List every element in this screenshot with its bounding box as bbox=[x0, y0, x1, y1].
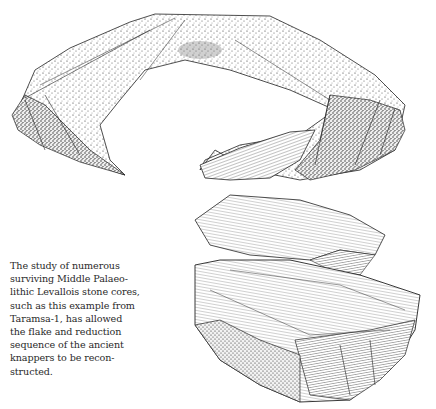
stone-core-arc-illustration bbox=[0, 0, 436, 200]
caption-line: surviving Middle Palaeo- bbox=[10, 272, 120, 285]
caption-line: the flake and reduction bbox=[10, 325, 120, 338]
caption-line: The study of numerous bbox=[10, 259, 120, 272]
caption-line: knappers to be recon- bbox=[10, 351, 120, 364]
levallois-core-illustration bbox=[190, 190, 436, 409]
caption-line: such as this example from bbox=[10, 299, 120, 312]
caption-line: structed. bbox=[10, 365, 120, 378]
caption-line: Taramsa-1, has allowed bbox=[10, 312, 120, 325]
figure-caption: The study of numerous surviving Middle P… bbox=[10, 259, 120, 378]
caption-line: lithic Levallois stone cores, bbox=[10, 285, 120, 298]
caption-line: sequence of the ancient bbox=[10, 338, 120, 351]
